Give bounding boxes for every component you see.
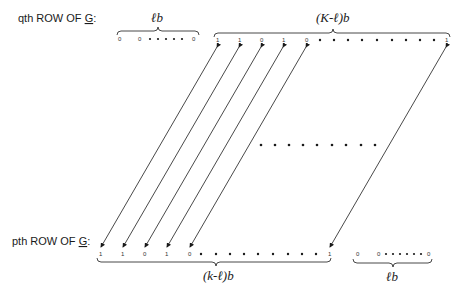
svg-text:0: 0 — [143, 251, 147, 257]
middle-ellipsis — [260, 144, 377, 147]
arrow-bit-3 — [145, 47, 261, 247]
bottom-right-bits: 0 0 0 — [356, 251, 431, 257]
svg-text:0: 0 — [356, 251, 360, 257]
svg-text:1: 1 — [282, 37, 286, 43]
top-right-brace-label: (K-ℓ)b — [316, 10, 350, 25]
svg-text:1: 1 — [121, 251, 125, 257]
top-right-bits: 1 1 0 1 0 1 — [216, 37, 449, 43]
arrow-bit-2 — [123, 47, 239, 247]
svg-text:0: 0 — [192, 36, 196, 42]
bottom-right-brace: ℓb — [353, 259, 432, 284]
svg-text:0: 0 — [377, 251, 381, 257]
arrow-bit-1 — [101, 47, 217, 247]
bottom-right-brace-label: ℓb — [386, 269, 398, 284]
svg-text:1: 1 — [238, 37, 242, 43]
bottom-left-brace-label: (k-ℓ)b — [203, 268, 234, 283]
svg-text:0: 0 — [138, 36, 142, 42]
svg-text:0: 0 — [118, 36, 122, 42]
arrow-bit-last — [330, 47, 446, 247]
bottom-left-brace: (k-ℓ)b — [97, 258, 331, 283]
svg-text:1: 1 — [445, 37, 449, 43]
bottom-row-label: pth ROW OF G: — [12, 235, 90, 247]
svg-text:1: 1 — [216, 37, 220, 43]
svg-text:1: 1 — [165, 251, 169, 257]
bottom-left-bits: 1 1 0 1 0 1 — [99, 251, 332, 257]
svg-text:0: 0 — [305, 37, 309, 43]
cyclic-shift-diagram: qth ROW OF G: pth ROW OF G: ℓb 0 0 0 (K-… — [0, 0, 456, 288]
shift-arrows — [101, 47, 446, 247]
svg-text:0: 0 — [260, 37, 264, 43]
svg-text:0: 0 — [427, 251, 431, 257]
svg-text:1: 1 — [99, 251, 103, 257]
arrow-bit-5 — [190, 47, 306, 247]
svg-text:0: 0 — [188, 251, 192, 257]
top-left-brace-label: ℓb — [151, 10, 163, 25]
svg-text:1: 1 — [328, 251, 332, 257]
arrow-bit-4 — [167, 47, 283, 247]
top-left-bits: 0 0 0 — [118, 36, 196, 42]
top-right-brace: (K-ℓ)b — [214, 10, 450, 37]
top-left-brace: ℓb — [117, 10, 199, 35]
top-row-label: qth ROW OF G: — [18, 12, 96, 24]
